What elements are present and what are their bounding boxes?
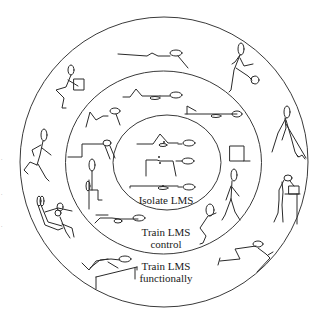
- figure-hurdle-over-bench: [82, 256, 137, 289]
- figure-prone-leg-raise: [123, 89, 182, 100]
- figure-sit-to-stand: [86, 159, 102, 209]
- outer-ring-label-line-2: functionally: [131, 272, 201, 284]
- figure-wall-sit: [68, 140, 115, 159]
- figure-lifting-box: [56, 65, 84, 108]
- lms-training-diagram: Isolate LMS Train LMS control Train LMS …: [0, 0, 322, 322]
- figure-running: [24, 129, 51, 181]
- figure-lifting-object-to-bench: [274, 175, 300, 224]
- outer-ring-label: Train LMS functionally: [131, 260, 201, 284]
- middle-ring-label-line-2: control: [131, 238, 201, 250]
- figure-step-up: [86, 108, 120, 127]
- figure-kicking-ball: [229, 43, 259, 92]
- figure-lunge-stretch: [218, 241, 273, 272]
- figure-prone-lying-arms-extended: [118, 50, 188, 68]
- figure-bridge-on-step: [185, 106, 242, 118]
- figure-raking: [272, 106, 306, 159]
- figure-seated-on-box: [230, 146, 250, 161]
- figure-prone-hip-lift: [137, 134, 195, 147]
- inner-ring-label: Isolate LMS: [131, 194, 201, 206]
- middle-ring-label-line-1: Train LMS: [131, 226, 201, 238]
- figure-four-point-kneeling: [146, 156, 194, 176]
- figure-prone-lying: [130, 184, 195, 190]
- figure-supine-lying: [95, 215, 145, 223]
- edge-mark-2: .: [1, 190, 2, 196]
- edge-mark-3: .: [1, 222, 2, 228]
- edge-mark-1: .: [1, 155, 2, 161]
- outer-ring-label-line-1: Train LMS: [131, 260, 201, 272]
- middle-ring-label: Train LMS control: [131, 226, 201, 250]
- inner-ring-label-line-1: Isolate LMS: [139, 194, 194, 206]
- figure-rowing: [37, 196, 74, 238]
- figure-walking: [222, 169, 240, 220]
- figure-squat: [200, 204, 216, 244]
